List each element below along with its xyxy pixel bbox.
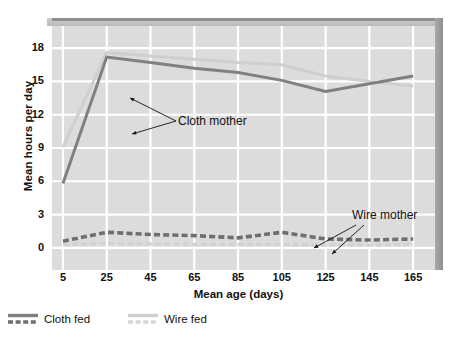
plot-shell: Cloth motherWire mother (47, 18, 443, 270)
plot-area: Cloth motherWire mother (52, 26, 435, 270)
chart-canvas: Cloth motherWire mother (52, 26, 435, 270)
x-axis-tick-labels: 525456585105125145165 (47, 272, 443, 288)
y-axis-tick-label: 0 (22, 242, 44, 253)
chart-legend: Cloth fed Wire fed (8, 308, 448, 332)
legend-label-cloth-fed: Cloth fed (44, 313, 90, 325)
annotation-arrowhead (132, 131, 137, 135)
y-axis-tick-label: 12 (22, 109, 44, 120)
legend-swatch-wire-fed (128, 312, 158, 326)
x-axis-title: Mean age (days) (47, 288, 430, 300)
chart-figure: Mean hours per day 1815129630 Cloth moth… (0, 0, 449, 339)
x-axis-tick-label: 165 (393, 272, 433, 283)
annotation-cloth-mother: Cloth mother (178, 114, 247, 128)
annotation-wire-mother: Wire mother (352, 208, 417, 222)
x-axis-tick-label: 5 (43, 272, 83, 283)
y-axis-tick-label: 6 (22, 175, 44, 186)
y-axis-tick-label: 9 (22, 142, 44, 153)
x-axis-tick-label: 145 (349, 272, 389, 283)
legend-label-wire-fed: Wire fed (164, 313, 207, 325)
legend-item-wire-fed: Wire fed (128, 308, 207, 330)
x-axis-tick-label: 65 (174, 272, 214, 283)
legend-swatch-cloth-fed (8, 312, 38, 326)
y-axis-tick-label: 18 (22, 42, 44, 53)
legend-item-cloth-fed: Cloth fed (8, 308, 90, 330)
plot-bevel-topcap (52, 18, 443, 21)
series-line (63, 243, 413, 245)
annotation-leader-line (130, 98, 176, 121)
y-axis-tick-label: 15 (22, 75, 44, 86)
x-axis-tick-label: 45 (130, 272, 170, 283)
y-axis-tick-label: 3 (22, 209, 44, 220)
plot-bevel-right (435, 18, 443, 270)
annotation-leader-line (132, 121, 176, 134)
x-axis-tick-label: 105 (262, 272, 302, 283)
y-axis-tick-labels: 1815129630 (18, 0, 44, 339)
x-axis-tick-label: 125 (306, 272, 346, 283)
x-axis-tick-label: 85 (218, 272, 258, 283)
x-axis-tick-label: 25 (87, 272, 127, 283)
